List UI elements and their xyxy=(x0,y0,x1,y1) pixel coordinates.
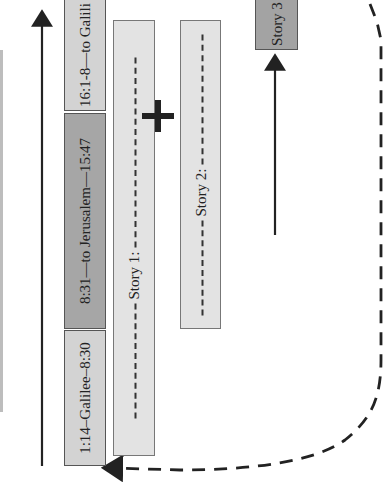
story-2-box: Story 2: xyxy=(180,20,221,329)
section-label: 1:14–Galilee–8:30 xyxy=(77,342,94,454)
story-1-label: Story 1: xyxy=(126,252,142,300)
dashed-line xyxy=(134,58,136,248)
section-galilee-return: 16:1-8—to Galili xyxy=(64,0,106,111)
dashed-line xyxy=(201,220,203,315)
section-to-jerusalem: 8:31—to Jerusalem—15:47 xyxy=(64,113,106,329)
story-3-box: Story 3 xyxy=(255,0,298,50)
section-galilee: 1:14–Galilee–8:30 xyxy=(64,330,106,466)
plus-icon xyxy=(142,100,174,132)
story-2-label: Story 2: xyxy=(192,168,208,216)
section-label: 8:31—to Jerusalem—15:47 xyxy=(77,138,94,304)
story-3-label: Story 3 xyxy=(268,2,285,46)
dashed-line xyxy=(134,303,136,418)
story-1-content: Story 1: xyxy=(126,58,143,419)
section-label: 16:1-8—to Galili xyxy=(77,3,94,107)
dashed-line xyxy=(201,34,203,164)
story-1-box: Story 1: xyxy=(113,20,155,456)
story-2-content: Story 2: xyxy=(192,34,209,315)
